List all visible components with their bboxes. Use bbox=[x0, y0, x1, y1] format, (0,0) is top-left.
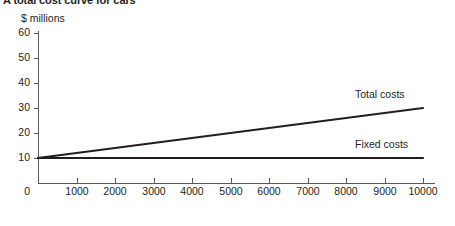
cost-curve-chart: A total cost curve for cars $ millions 6… bbox=[0, 0, 455, 226]
series-label-total-costs: Total costs bbox=[355, 89, 405, 100]
series-label-fixed-costs: Fixed costs bbox=[355, 139, 408, 150]
series-line-total-costs bbox=[38, 108, 423, 158]
plot-area bbox=[0, 0, 455, 226]
